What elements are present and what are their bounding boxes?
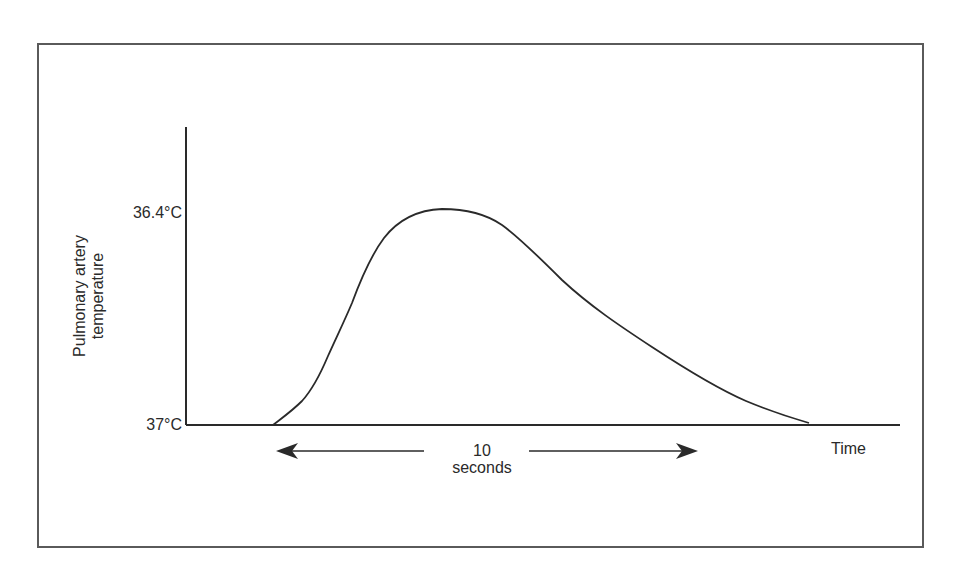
duration-annotation: 10 seconds xyxy=(452,442,512,476)
duration-unit: seconds xyxy=(452,459,512,476)
x-axis-label: Time xyxy=(831,441,866,457)
y-axis-label-line2: temperature xyxy=(89,235,107,357)
y-tick-37: 37°C xyxy=(92,417,182,433)
duration-value: 10 xyxy=(452,442,512,459)
thermodilution-curve xyxy=(273,209,809,425)
y-axis-label-line1: Pulmonary artery xyxy=(71,235,89,357)
y-axis-label: Pulmonary artery temperature xyxy=(71,235,107,357)
chart-plot xyxy=(0,0,960,582)
y-tick-36-4: 36.4°C xyxy=(92,205,182,221)
